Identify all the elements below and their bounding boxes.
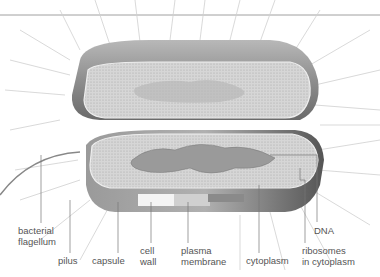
label-cytoplasm: cytoplasm: [246, 255, 289, 266]
label-pilus: pilus: [58, 255, 78, 266]
top-nucleoid: [134, 80, 245, 103]
cell-wall-window: [138, 194, 174, 206]
membrane-window: [174, 194, 210, 206]
label-capsule: capsule: [92, 255, 125, 266]
flagellum: [0, 152, 80, 195]
label-ribosomes: ribosomes in cytoplasm: [302, 245, 355, 267]
label-cell-wall: cell wall: [140, 245, 156, 267]
bacterial-cell-diagram: bacterial flagellum pilus capsule cell w…: [0, 0, 380, 277]
cytoplasm-window: [208, 194, 244, 202]
label-dna: DNA: [314, 225, 334, 236]
label-bacterial-flagellum: bacterial flagellum: [18, 225, 56, 247]
label-plasma-membrane: plasma membrane: [181, 245, 226, 267]
